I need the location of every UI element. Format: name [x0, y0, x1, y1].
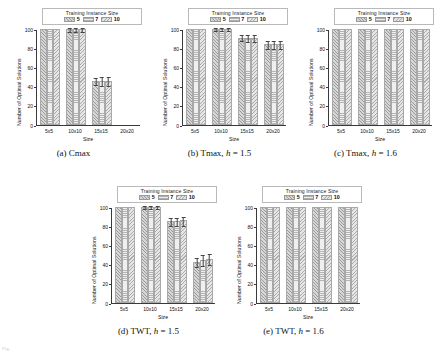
legend-title: Training Instance Size: [46, 10, 138, 16]
y-axis-tick: 40: [96, 263, 108, 268]
y-axis-tick: 0: [167, 124, 179, 129]
y-axis-tick: 0: [313, 124, 325, 129]
caption-suffix: = 1.6: [376, 148, 397, 158]
legend-item-label: 7: [95, 17, 98, 22]
error-bar: [196, 258, 197, 268]
legend-item-5: 5: [356, 17, 372, 22]
error-bar: [215, 28, 216, 32]
legend-item-label: 5: [297, 195, 300, 200]
panel-caption: (c) Tmax, h = 1.6: [294, 148, 437, 158]
legend-title: Training Instance Size: [338, 10, 430, 16]
panel-d: Training Instance Size57100204060801005x…: [77, 186, 220, 351]
x-axis-tick: 20x20: [406, 129, 432, 134]
bar: [397, 29, 403, 125]
x-axis-tick: 15x15: [380, 129, 406, 134]
legend-item-label: 7: [315, 195, 318, 200]
legend-item-7: 7: [158, 195, 174, 200]
bar: [371, 29, 377, 125]
legend-entries: 5710: [121, 195, 213, 200]
legend-item-5: 5: [64, 17, 80, 22]
bar: [154, 207, 160, 303]
y-axis-tick: 60: [313, 66, 325, 71]
error-bar: [228, 28, 229, 32]
legend-item-10: 10: [321, 195, 340, 200]
error-bar: [170, 218, 171, 226]
bar: [273, 207, 279, 303]
y-axis-label: Number of Optimal Solutions: [91, 236, 97, 304]
panel-caption: (e) TWT, h = 1.6: [222, 326, 365, 336]
plot-area: [256, 208, 360, 304]
y-axis-tick: 40: [21, 85, 33, 90]
y-axis-tick: 20: [241, 282, 253, 287]
x-axis-tick: 15x15: [88, 129, 114, 134]
bar-group: [115, 30, 141, 125]
error-bar: [203, 255, 204, 266]
legend: Training Instance Size5710: [42, 8, 142, 25]
y-axis-tick: 100: [96, 206, 108, 211]
x-axis-tick: 10x10: [137, 307, 163, 312]
x-axis-tick: 15x15: [308, 307, 334, 312]
legend: Training Instance Size5710: [117, 186, 217, 203]
y-axis-label: Number of Optimal Solutions: [236, 236, 242, 304]
legend-item-label: 10: [334, 195, 340, 200]
y-axis-tick: 100: [241, 206, 253, 211]
bar-group: [355, 30, 381, 125]
legend-entries: 5710: [266, 195, 358, 200]
error-bar: [254, 35, 255, 42]
legend-item-10: 10: [176, 195, 195, 200]
bar: [199, 29, 205, 125]
x-axis-tick: 20x20: [189, 307, 215, 312]
error-bar: [82, 28, 83, 33]
bar-group: [235, 30, 261, 125]
bar: [128, 207, 134, 303]
bar: [180, 220, 186, 303]
error-bar: [274, 41, 275, 50]
bar-group: [89, 30, 115, 125]
error-bar: [222, 28, 223, 32]
error-bar: [248, 35, 249, 42]
panel-a: Training Instance Size57100204060801005x…: [2, 8, 145, 173]
error-bar: [144, 206, 145, 210]
y-axis-tick: 20: [167, 104, 179, 109]
legend-swatch-icon: [210, 17, 221, 22]
y-axis-tick: 100: [167, 28, 179, 33]
panel-caption: (a) Cmax: [2, 148, 145, 158]
legend-swatch-icon: [101, 17, 112, 22]
legend-item-label: 10: [406, 17, 412, 22]
y-axis-tick: 100: [313, 28, 325, 33]
bar-group: [381, 30, 407, 125]
error-bar: [177, 218, 178, 227]
legend-item-5: 5: [139, 195, 155, 200]
legend-title: Training Instance Size: [266, 188, 358, 194]
legend: Training Instance Size5710: [188, 8, 288, 25]
legend-item-label: 10: [114, 17, 120, 22]
legend-swatch-icon: [303, 195, 314, 200]
plot-area: [36, 30, 140, 126]
plot-area: [328, 30, 432, 126]
bar: [423, 29, 429, 125]
y-axis-tick: 80: [313, 47, 325, 52]
legend-item-10: 10: [247, 17, 266, 22]
x-axis-label: Size: [36, 136, 140, 142]
y-axis-tick: 80: [96, 225, 108, 230]
caption-suffix: = 1.6: [303, 326, 324, 336]
legend-entries: 5710: [192, 17, 284, 22]
x-axis-label: Size: [256, 314, 360, 320]
y-axis-tick: 40: [313, 85, 325, 90]
legend-swatch-icon: [284, 195, 295, 200]
x-axis-label: Size: [111, 314, 215, 320]
y-axis-tick: 100: [21, 28, 33, 33]
y-axis-tick: 20: [313, 104, 325, 109]
legend-item-label: 5: [152, 195, 155, 200]
bar-group: [63, 30, 89, 125]
bar-group: [164, 208, 190, 303]
panel-e: Training Instance Size57100204060801005x…: [222, 186, 365, 351]
y-axis-tick: 20: [21, 104, 33, 109]
bar: [79, 29, 85, 125]
legend-item-label: 5: [369, 17, 372, 22]
caption-suffix: = 1.5: [158, 326, 179, 336]
bar: [105, 81, 111, 125]
bar-group: [335, 208, 361, 303]
legend-swatch-icon: [356, 17, 367, 22]
bar: [225, 29, 231, 125]
